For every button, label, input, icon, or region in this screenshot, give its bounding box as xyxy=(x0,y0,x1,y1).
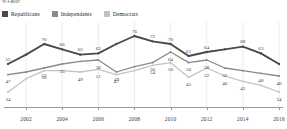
data-point[interactable] xyxy=(7,63,9,65)
data-point[interactable] xyxy=(43,43,45,45)
series-line-republicans xyxy=(8,36,279,64)
legend-label-democrats: Democrats xyxy=(113,11,138,17)
data-label: 64 xyxy=(168,56,173,61)
data-point[interactable] xyxy=(278,91,280,93)
x-axis-label: 2004 xyxy=(56,116,68,122)
x-axis-tick xyxy=(207,107,208,110)
data-label: 54 xyxy=(150,69,155,74)
data-point[interactable] xyxy=(61,63,63,65)
data-label: 63 xyxy=(96,45,101,50)
data-point[interactable] xyxy=(206,59,208,61)
data-point[interactable] xyxy=(242,80,244,82)
legend-swatch-republicans xyxy=(2,11,8,17)
legend-label-independents: Independents xyxy=(61,11,92,17)
data-label: 70 xyxy=(42,36,47,41)
data-point[interactable] xyxy=(133,35,135,37)
data-label: 47 xyxy=(114,79,119,84)
data-point[interactable] xyxy=(79,54,81,56)
data-point[interactable] xyxy=(169,43,171,45)
data-label: 50 xyxy=(168,67,173,72)
x-axis-tick xyxy=(26,107,27,110)
data-label: 68 xyxy=(240,39,245,44)
data-label: 58 xyxy=(204,64,209,69)
data-label: 52 xyxy=(204,72,209,77)
data-label: 56 xyxy=(186,67,191,72)
data-label: 55 xyxy=(5,56,10,61)
data-point[interactable] xyxy=(25,71,27,73)
data-label: 61 xyxy=(186,48,191,53)
legend-swatch-independents xyxy=(52,11,58,17)
x-axis-tick xyxy=(62,107,63,110)
legend-item-independents[interactable]: Independents xyxy=(52,11,92,17)
x-axis-label: 2006 xyxy=(93,116,105,122)
data-label: 45 xyxy=(186,81,191,86)
data-label: 52 xyxy=(222,72,227,77)
data-point[interactable] xyxy=(260,72,262,74)
data-label: 55 xyxy=(60,68,65,73)
x-axis-label: 2012 xyxy=(201,116,213,122)
data-point[interactable] xyxy=(134,70,136,72)
x-axis-label: 2008 xyxy=(129,116,141,122)
data-point[interactable] xyxy=(151,40,153,42)
legend-item-democrats[interactable]: Democrats xyxy=(104,11,138,17)
data-label: 63 xyxy=(258,45,263,50)
data-point[interactable] xyxy=(97,52,99,54)
x-axis-label: 2002 xyxy=(20,116,32,122)
data-point[interactable] xyxy=(115,43,117,45)
data-point[interactable] xyxy=(7,74,9,76)
data-point[interactable] xyxy=(206,51,208,53)
legend-swatch-democrats xyxy=(104,11,110,17)
data-label: 46 xyxy=(222,80,227,85)
chart-container: % Favor Republicans Independents Democra… xyxy=(0,0,287,129)
chart-legend: Republicans Independents Democrats xyxy=(2,8,150,20)
data-point[interactable] xyxy=(188,55,190,57)
data-point[interactable] xyxy=(188,76,190,78)
data-label: 64 xyxy=(204,44,209,49)
data-point[interactable] xyxy=(260,84,262,86)
data-point[interactable] xyxy=(43,67,45,69)
data-label: 58 xyxy=(96,64,101,69)
data-point[interactable] xyxy=(170,62,172,64)
data-point[interactable] xyxy=(224,67,226,69)
data-point[interactable] xyxy=(152,62,154,64)
data-point[interactable] xyxy=(278,63,280,65)
data-point[interactable] xyxy=(116,71,118,73)
data-point[interactable] xyxy=(278,75,280,77)
data-point[interactable] xyxy=(224,48,226,50)
x-axis-tick xyxy=(243,107,244,110)
data-label: 46 xyxy=(276,80,281,85)
data-label: 70 xyxy=(168,36,173,41)
data-point[interactable] xyxy=(242,70,244,72)
x-axis-label: 2014 xyxy=(237,116,249,122)
data-label: 72 xyxy=(150,33,155,38)
data-point[interactable] xyxy=(97,59,99,61)
data-point[interactable] xyxy=(25,54,27,56)
data-label: 50 xyxy=(42,75,47,80)
data-point[interactable] xyxy=(79,60,81,62)
data-label: 34 xyxy=(5,96,10,101)
data-label: 42 xyxy=(240,85,245,90)
x-axis-line xyxy=(4,107,283,108)
data-label: 76 xyxy=(132,28,137,33)
x-axis-tick xyxy=(171,107,172,110)
data-point[interactable] xyxy=(25,78,27,80)
data-point[interactable] xyxy=(242,46,244,48)
data-label: 51 xyxy=(96,73,101,78)
data-label: 48 xyxy=(258,77,263,82)
plot-area: 5570666263767270616468634752555849566456… xyxy=(0,22,287,108)
legend-item-republicans[interactable]: Republicans xyxy=(2,11,40,17)
data-label: 66 xyxy=(60,41,65,46)
x-axis-tick xyxy=(98,107,99,110)
data-point[interactable] xyxy=(79,71,81,73)
series-line-independents xyxy=(8,52,279,76)
data-label: 34 xyxy=(276,96,281,101)
data-point[interactable] xyxy=(170,51,172,53)
data-point[interactable] xyxy=(134,66,136,68)
chart-svg xyxy=(0,22,287,108)
data-label: 49 xyxy=(78,76,83,81)
data-point[interactable] xyxy=(7,91,9,93)
data-point[interactable] xyxy=(61,48,63,50)
x-axis-tick xyxy=(134,107,135,110)
data-point[interactable] xyxy=(260,52,262,54)
data-point[interactable] xyxy=(188,62,190,64)
